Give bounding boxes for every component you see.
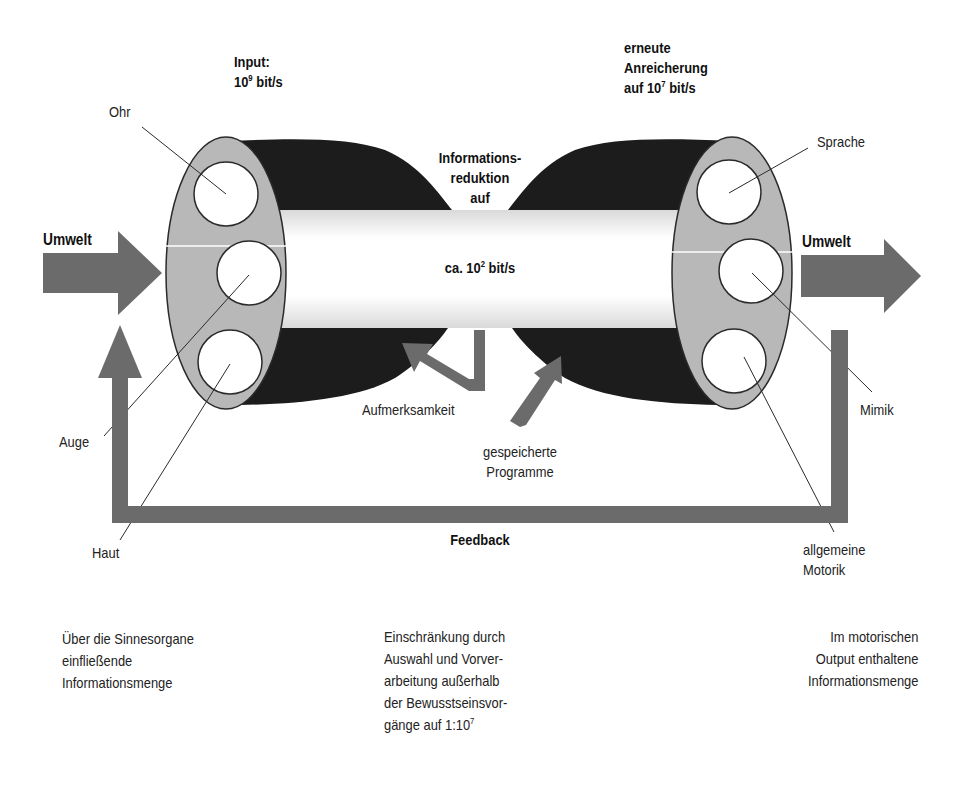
stored-programs-arrow-icon bbox=[510, 356, 562, 427]
enrichment-label: erneute Anreicherung auf 107 bit/s bbox=[624, 38, 708, 98]
input-rate: 109 bit/s bbox=[234, 72, 283, 92]
input-title: Input: bbox=[234, 52, 283, 72]
speech-circle bbox=[697, 160, 761, 224]
feedback-label: Feedback bbox=[411, 530, 549, 550]
caption-center-line4: der Bewusstseinsvor- bbox=[384, 692, 507, 714]
caption-left: Über die Sinnesorgane einfließende Infor… bbox=[62, 628, 194, 694]
caption-right-line3: Informationsmenge bbox=[808, 670, 918, 692]
caption-left-line3: Informationsmenge bbox=[62, 672, 194, 694]
caption-right-line1: Im motorischen bbox=[808, 626, 918, 648]
caption-left-line1: Über die Sinnesorgane bbox=[62, 628, 194, 650]
facial-circle bbox=[719, 239, 783, 303]
caption-left-line2: einfließende bbox=[62, 650, 194, 672]
caption-center-line3: arbeitung außerhalb bbox=[384, 670, 507, 692]
stored-programs-line2: Programme bbox=[451, 462, 589, 482]
skin-circle bbox=[198, 330, 262, 394]
facial-label: Mimik bbox=[860, 400, 894, 420]
caption-center-line2: Auswahl und Vorver- bbox=[384, 648, 507, 670]
input-label: Input: 109 bit/s bbox=[234, 52, 283, 92]
stored-programs-label: gespeicherte Programme bbox=[451, 442, 589, 482]
caption-center: Einschränkung durch Auswahl und Vorver- … bbox=[384, 626, 507, 736]
caption-right-line2: Output enthaltene bbox=[808, 648, 918, 670]
environment-out-label: Umwelt bbox=[802, 232, 851, 252]
motor-label-line1: allgemeine bbox=[803, 540, 865, 560]
speech-label: Sprache bbox=[817, 132, 865, 152]
sense-organs-ellipse bbox=[166, 137, 286, 409]
motor-label-line2: Motorik bbox=[803, 560, 865, 580]
caption-center-line1: Einschränkung durch bbox=[384, 626, 507, 648]
stored-programs-line1: gespeicherte bbox=[451, 442, 589, 462]
motor-output-ellipse bbox=[672, 137, 792, 409]
enrichment-rate: auf 107 bit/s bbox=[624, 78, 708, 98]
motor-circle bbox=[702, 329, 766, 393]
reduction-rate: ca. 102 bit/s bbox=[411, 258, 549, 278]
enrichment-line2: Anreicherung bbox=[624, 58, 708, 78]
reduction-line3: auf bbox=[411, 188, 549, 208]
caption-right: Im motorischen Output enthaltene Informa… bbox=[808, 626, 918, 692]
attention-label: Aufmerksamkeit bbox=[362, 400, 454, 420]
enrichment-line1: erneute bbox=[624, 38, 708, 58]
motor-label: allgemeine Motorik bbox=[803, 540, 865, 580]
eye-circle bbox=[217, 241, 281, 305]
environment-in-label: Umwelt bbox=[43, 230, 92, 250]
ear-label: Ohr bbox=[109, 102, 131, 122]
reduction-line2: reduktion bbox=[411, 168, 549, 188]
skin-label: Haut bbox=[92, 543, 119, 563]
reduction-line1: Informations- bbox=[411, 148, 549, 168]
eye-label: Auge bbox=[59, 432, 89, 452]
reduction-label: Informations- reduktion auf bbox=[411, 148, 549, 208]
caption-center-line5: gänge auf 1:107 bbox=[384, 714, 507, 736]
